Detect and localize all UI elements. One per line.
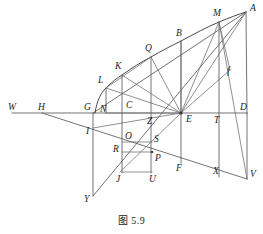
label-U: U: [149, 174, 157, 184]
segment-f-to-E: [181, 70, 230, 113]
ray-EM: [181, 22, 219, 113]
label-W: W: [8, 102, 17, 112]
segment-MV: [219, 22, 247, 179]
label-P: P: [154, 153, 161, 163]
label-X: X: [212, 166, 220, 176]
segment-Mf: [219, 22, 230, 70]
label-H: H: [37, 102, 46, 112]
label-S: S: [154, 134, 159, 144]
label-A: A: [249, 3, 256, 13]
segment-QN: [106, 57, 151, 88]
label-K: K: [114, 61, 122, 71]
label-V: V: [250, 169, 257, 179]
label-E: E: [185, 114, 192, 124]
vertex-dot-E: [179, 111, 182, 114]
vertex-dot-P: [151, 151, 154, 154]
label-O: O: [125, 131, 132, 141]
label-f: f: [227, 66, 231, 76]
label-J: J: [116, 174, 121, 184]
figure-caption: 图 5.9: [0, 212, 263, 227]
label-C: C: [126, 100, 133, 110]
label-Q: Q: [145, 43, 152, 53]
label-D: D: [239, 102, 247, 112]
vertical-AD: [246, 12, 247, 113]
label-B: B: [176, 28, 182, 38]
point-labels: W H G N C Z E T D A M B Q K L I O S R P …: [8, 3, 257, 204]
label-F: F: [175, 163, 182, 173]
label-G: G: [84, 102, 91, 112]
figure-container: W H G N C Z E T D A M B Q K L I O S R P …: [0, 0, 263, 234]
label-N: N: [99, 104, 107, 114]
label-R: R: [112, 144, 119, 154]
geometry-diagram: W H G N C Z E T D A M B Q K L I O S R P …: [0, 0, 263, 234]
label-L: L: [97, 75, 103, 85]
label-I: I: [85, 126, 90, 136]
label-T: T: [214, 115, 220, 125]
lower-rectangles: [122, 142, 152, 172]
label-Y: Y: [84, 194, 91, 204]
label-M: M: [212, 8, 222, 18]
label-Z: Z: [147, 116, 153, 126]
ray-EA: [181, 12, 246, 113]
